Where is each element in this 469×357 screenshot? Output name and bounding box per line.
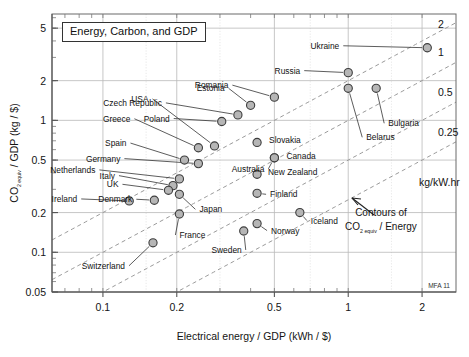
data-marker xyxy=(344,69,352,77)
y-axis-title: CO2 equiv / GDP (kg / $) xyxy=(8,103,22,202)
data-marker xyxy=(164,186,172,194)
data-marker xyxy=(180,156,188,164)
data-point-label: Spain xyxy=(105,138,127,148)
data-point-label: USA xyxy=(131,94,149,104)
data-marker xyxy=(175,190,183,198)
data-marker xyxy=(150,196,158,204)
data-point-label: Japan xyxy=(199,204,222,214)
leader-line xyxy=(303,216,307,220)
leader-line xyxy=(343,46,422,48)
contour-annotation-line1: Contours of xyxy=(355,207,407,218)
data-marker xyxy=(210,142,218,150)
data-marker xyxy=(218,117,226,125)
leader-line xyxy=(244,236,245,250)
leader-line xyxy=(129,246,149,265)
contour-label-0.5: 0.5 xyxy=(438,86,453,98)
data-point-label: Iceland xyxy=(311,216,338,226)
data-point-label: Ireland xyxy=(52,194,78,204)
chart-figure: 0.10.20.5120.050.10.20.5125 210.50.25 Uk… xyxy=(0,0,469,357)
leader-line xyxy=(304,71,343,73)
annot-co2-sub: 2 equiv xyxy=(360,228,377,234)
data-marker xyxy=(270,154,278,162)
data-point-label: Russia xyxy=(275,66,301,76)
leader-line xyxy=(350,93,363,137)
data-marker xyxy=(194,160,202,168)
data-point-label: UK xyxy=(107,179,119,189)
leader-line xyxy=(136,199,149,200)
annot-co2: CO xyxy=(345,221,360,232)
data-point-label: Estonia xyxy=(197,83,225,93)
data-marker xyxy=(149,239,157,247)
y-title-co2: CO xyxy=(8,187,20,203)
data-point-label: France xyxy=(179,230,205,240)
leader-line xyxy=(261,227,267,231)
data-point-label: New Zealand xyxy=(268,167,318,177)
data-marker xyxy=(253,138,261,146)
leader-line xyxy=(377,93,384,123)
x-tick-label: 0.2 xyxy=(169,301,184,313)
data-point-label: Belarus xyxy=(366,132,394,142)
data-marker xyxy=(253,189,261,197)
y-tick-label: 0.2 xyxy=(31,207,46,219)
data-point-label: Netherlands xyxy=(50,165,95,175)
scatter-plot: 0.10.20.5120.050.10.20.5125 210.50.25 Uk… xyxy=(0,0,469,357)
data-point-label: Germany xyxy=(86,154,121,164)
data-marker xyxy=(175,175,183,183)
x-tick-label: 2 xyxy=(419,301,425,313)
data-point-label: Ukraine xyxy=(310,41,339,51)
data-marker xyxy=(234,111,242,119)
minor-gridlines xyxy=(146,14,391,292)
y-title-sub: 2 equiv xyxy=(16,170,22,187)
y-tick-label: 2 xyxy=(40,75,46,87)
data-point-label: Poland xyxy=(144,114,170,124)
y-tick-label: 5 xyxy=(40,22,46,34)
y-tick-label: 0.1 xyxy=(31,246,46,258)
data-marker xyxy=(175,210,183,218)
data-point-label: Sweden xyxy=(211,245,242,255)
watermark-label: MFA 11 xyxy=(428,282,450,289)
data-marker xyxy=(270,93,278,101)
data-marker xyxy=(194,144,202,152)
data-point-label: Switzerland xyxy=(82,261,126,271)
contour-unit-label: kg/kW.hr xyxy=(419,176,460,188)
y-title-rest: / GDP (kg / $) xyxy=(8,103,20,170)
leader-line xyxy=(130,143,179,158)
data-marker xyxy=(296,208,304,216)
contour-label-1: 1 xyxy=(438,46,444,58)
data-marker xyxy=(253,219,261,227)
x-tick-label: 0.5 xyxy=(267,301,282,313)
x-tick-label: 1 xyxy=(345,301,351,313)
leader-line xyxy=(166,103,233,114)
contour-label-2: 2 xyxy=(438,18,444,30)
data-marker xyxy=(372,84,380,92)
contour-annotation-line2: CO2 equiv / Energy xyxy=(345,221,417,234)
leader-line xyxy=(229,88,247,102)
y-tick-label: 0.05 xyxy=(26,286,47,298)
data-marker xyxy=(344,84,352,92)
data-point-label: Finland xyxy=(270,189,298,199)
data-marker xyxy=(240,227,248,235)
chart-title-box: Energy, Carbon, and GDP xyxy=(62,22,206,42)
contour-label-0.25: 0.25 xyxy=(438,126,459,138)
data-point-label: Bulgaria xyxy=(388,118,419,128)
data-marker xyxy=(247,101,255,109)
data-point-label: Canada xyxy=(286,151,316,161)
data-marker xyxy=(423,44,431,52)
data-point-label: Denmark xyxy=(98,194,133,204)
y-tick-label: 0.5 xyxy=(31,154,46,166)
data-point-label: Greece xyxy=(103,114,131,124)
x-tick-label: 0.1 xyxy=(96,301,111,313)
leader-line xyxy=(232,85,269,96)
leader-line xyxy=(122,184,163,189)
data-point-labels: UkraineRussiaBelarusBulgariaRomaniaEston… xyxy=(50,41,419,271)
annot-energy: / Energy xyxy=(377,221,417,232)
x-axis-title: Electrical energy / GDP (kWh / $) xyxy=(177,330,331,342)
y-tick-label: 1 xyxy=(40,114,46,126)
data-point-label: Norway xyxy=(271,226,300,236)
data-point-label: Slovakia xyxy=(269,135,301,145)
data-point-label: Australia xyxy=(232,164,265,174)
